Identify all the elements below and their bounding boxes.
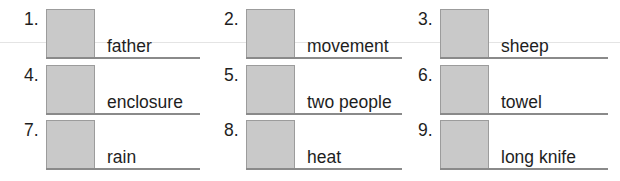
underline (246, 168, 402, 170)
answer-box[interactable] (246, 9, 295, 58)
item-label: sheep (501, 37, 549, 55)
underline (246, 57, 402, 59)
answer-box[interactable] (246, 120, 295, 169)
exercise-item-2: 2. movement (224, 9, 414, 61)
exercise-item-3: 3. sheep (418, 9, 608, 61)
underline (246, 113, 402, 115)
exercise-item-9: 9. long knife (418, 120, 608, 172)
underline (46, 57, 200, 59)
item-number: 4. (24, 66, 39, 84)
item-label: father (107, 37, 152, 55)
item-label: enclosure (107, 93, 183, 111)
answer-box[interactable] (46, 65, 95, 114)
item-number: 7. (24, 121, 39, 139)
item-label: heat (307, 148, 341, 166)
item-label: long knife (501, 148, 576, 166)
underline (46, 113, 200, 115)
item-label: rain (107, 148, 136, 166)
item-number: 9. (418, 121, 433, 139)
exercise-item-4: 4. enclosure (24, 65, 214, 117)
item-number: 2. (224, 10, 239, 28)
underline (440, 168, 608, 170)
exercise-item-7: 7. rain (24, 120, 214, 172)
item-number: 8. (224, 121, 239, 139)
answer-box[interactable] (46, 9, 95, 58)
item-number: 5. (224, 66, 239, 84)
item-label: movement (307, 37, 389, 55)
exercise-item-5: 5. two people (224, 65, 414, 117)
item-label: towel (501, 93, 542, 111)
underline (46, 168, 200, 170)
underline (440, 113, 608, 115)
answer-box[interactable] (440, 65, 489, 114)
answer-box[interactable] (440, 120, 489, 169)
exercise-item-6: 6. towel (418, 65, 608, 117)
item-number: 1. (24, 10, 39, 28)
item-number: 3. (418, 10, 433, 28)
answer-box[interactable] (440, 9, 489, 58)
answer-box[interactable] (46, 120, 95, 169)
answer-box[interactable] (246, 65, 295, 114)
item-number: 6. (418, 66, 433, 84)
item-label: two people (307, 93, 392, 111)
exercise-item-1: 1. father (24, 9, 214, 61)
exercise-item-8: 8. heat (224, 120, 414, 172)
underline (440, 57, 608, 59)
